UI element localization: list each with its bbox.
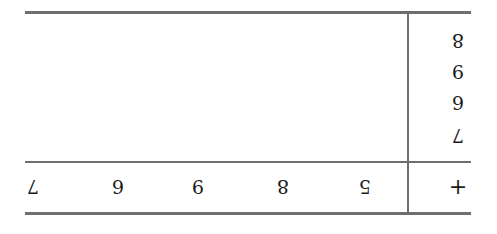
row-header: 9: [443, 58, 473, 86]
addition-table: + 5 8 9 6 7 7 6 9 8: [0, 0, 497, 234]
row-header: 8: [443, 27, 473, 55]
row-header: 7: [443, 122, 473, 150]
row-header-divider: [407, 11, 409, 214]
column-header: 5: [350, 173, 380, 201]
column-header: 7: [18, 173, 48, 201]
header-rule: [25, 161, 471, 163]
bottom-rule: [25, 11, 471, 14]
column-header: 6: [103, 173, 133, 201]
row-header: 6: [443, 89, 473, 117]
column-header: 9: [183, 173, 213, 201]
top-rule: [25, 212, 471, 215]
operator-cell: +: [443, 173, 473, 201]
column-header: 8: [268, 173, 298, 201]
